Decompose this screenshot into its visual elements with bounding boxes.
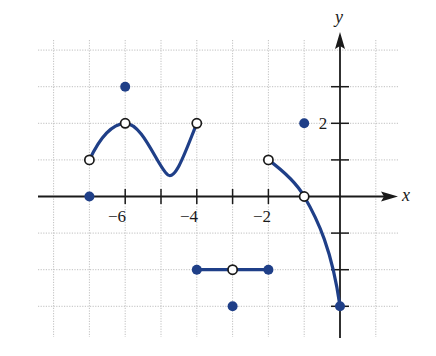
closed-point-0-neg3: [335, 301, 345, 311]
open-point-neg2-1: [264, 155, 273, 164]
open-point-neg4-2: [192, 119, 201, 128]
closed-point-neg2-neg2: [263, 265, 273, 275]
closed-point-neg6-3: [120, 82, 130, 92]
x-tick-label-neg4: −4: [180, 207, 199, 226]
closed-point-neg7-0: [84, 192, 94, 202]
y-tick-label-2: 2: [319, 114, 328, 133]
function-graph: −6 −4 −2 2 x y: [0, 0, 436, 356]
open-point-neg3-neg2: [228, 265, 237, 274]
curve-segment-a: [89, 123, 196, 175]
open-point-neg1-0: [300, 192, 309, 201]
open-point-neg6-2: [121, 119, 130, 128]
x-tick-label-neg6: −6: [108, 207, 126, 226]
open-point-neg7-1: [85, 155, 94, 164]
y-axis-label: y: [333, 7, 343, 27]
closed-point-neg4-neg2: [192, 265, 202, 275]
grid: [38, 40, 398, 337]
closed-point-neg3-neg3: [228, 301, 238, 311]
closed-point-neg1-2: [299, 118, 309, 128]
x-tick-label-neg2: −2: [253, 207, 271, 226]
x-axis-label: x: [401, 185, 410, 205]
